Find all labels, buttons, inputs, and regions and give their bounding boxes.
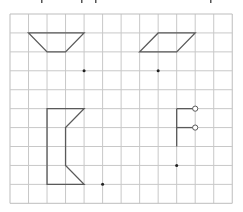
open-circle-icon — [193, 106, 198, 111]
text-descender-fragment — [41, 0, 43, 3]
parallelogram-center-dot — [157, 69, 160, 72]
trapezoid-center-dot — [83, 69, 86, 72]
text-descender-fragment — [95, 0, 97, 3]
parallelogram — [140, 33, 196, 52]
grid-figure-canvas — [0, 0, 243, 212]
flag-center-dot — [175, 164, 178, 167]
bracket-center-dot — [101, 183, 104, 186]
text-descender-fragment — [81, 0, 83, 3]
trapezoid — [29, 33, 85, 52]
square-grid — [10, 14, 232, 203]
flag-figure — [177, 106, 198, 146]
open-circle-icon — [193, 125, 198, 130]
text-descender-fragment — [210, 0, 212, 3]
cropped-text-fragments — [41, 0, 212, 3]
